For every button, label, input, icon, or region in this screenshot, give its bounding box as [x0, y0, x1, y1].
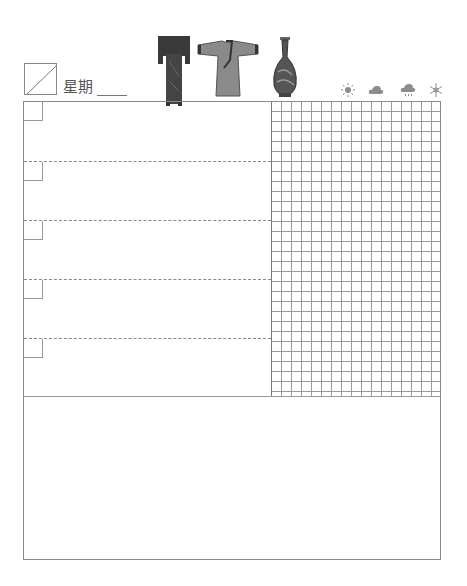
grid-writing-area[interactable] — [271, 102, 441, 396]
date-box[interactable] — [24, 63, 57, 95]
robe-stand-illustration — [157, 36, 191, 106]
todo-checkbox[interactable] — [24, 280, 43, 299]
todo-checkbox[interactable] — [24, 339, 43, 358]
todo-checkbox[interactable] — [24, 162, 43, 181]
cloud-icon[interactable] — [368, 82, 384, 98]
todo-row[interactable] — [24, 102, 271, 161]
snowflake-icon[interactable] — [428, 82, 444, 98]
todo-row[interactable] — [24, 220, 271, 280]
todo-row[interactable] — [24, 338, 271, 398]
sun-icon[interactable] — [340, 82, 356, 98]
weekday-label: 星期 — [63, 78, 93, 96]
notes-area[interactable] — [24, 397, 440, 559]
robe-illustration — [196, 38, 260, 100]
todo-list — [24, 102, 271, 396]
todo-row[interactable] — [24, 161, 271, 221]
todo-row[interactable] — [24, 279, 271, 339]
diagonal-line-icon — [25, 64, 57, 95]
vase-illustration — [270, 37, 300, 99]
weekday-input[interactable] — [97, 95, 127, 96]
todo-checkbox[interactable] — [24, 102, 43, 121]
planner-sheet — [23, 101, 441, 560]
todo-checkbox[interactable] — [24, 221, 43, 240]
rain-cloud-icon[interactable] — [400, 82, 416, 98]
